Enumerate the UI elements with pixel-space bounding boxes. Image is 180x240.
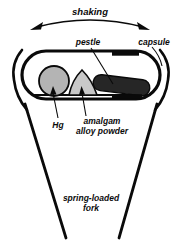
amalgam-label-line2: alloy powder [76, 126, 129, 136]
capsule-label: capsule [138, 37, 170, 47]
amalgamator-diagram: shaking pestle [0, 0, 180, 240]
fork-arm-right [119, 104, 157, 238]
amalgam-label-line1: amalgam [84, 116, 121, 126]
fork-label-line1: spring-loaded [63, 193, 120, 203]
shaking-label: shaking [72, 6, 108, 17]
pestle-label: pestle [75, 37, 101, 47]
shaking-arrow-head-left [30, 22, 43, 30]
capsule-cap-top-bar [112, 52, 139, 56]
shaking-arrow-arc [37, 20, 143, 27]
hg-label: Hg [52, 120, 64, 130]
fork-label-line2: fork [83, 203, 100, 213]
capsule-cap-bottom-bar [112, 94, 142, 99]
shaking-arrow-icon [30, 20, 150, 30]
diagram-canvas: shaking pestle [0, 0, 180, 240]
shaking-arrow-head-right [137, 22, 150, 30]
